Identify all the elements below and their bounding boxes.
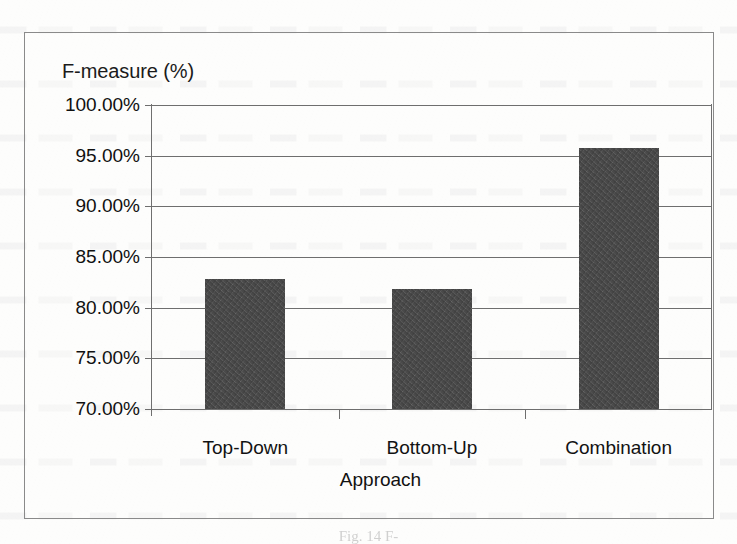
y-axis-tick-label: 80.00%	[28, 297, 140, 319]
y-axis-tick-mark	[145, 409, 153, 410]
x-axis-category-label: Bottom-Up	[339, 437, 526, 459]
y-axis-tick-label: 70.00%	[28, 398, 140, 420]
scanned-page: F-measure (%) 100.00%95.00%90.00%85.00%8…	[0, 0, 737, 544]
y-axis-tick-mark	[145, 308, 153, 309]
y-axis-tick-mark	[145, 105, 153, 106]
y-axis-tick-mark	[145, 257, 153, 258]
y-axis-tick-label: 85.00%	[28, 246, 140, 268]
x-axis-tick-mark	[339, 410, 340, 419]
bar-combination	[579, 148, 659, 409]
x-axis-category-label: Top-Down	[152, 437, 339, 459]
gridline	[152, 105, 712, 106]
y-axis-tick-label: 95.00%	[28, 145, 140, 167]
y-axis-tick-label: 100.00%	[28, 94, 140, 116]
y-axis-tick-mark	[145, 156, 153, 157]
bar-top-down	[205, 279, 285, 409]
x-axis-line	[152, 409, 712, 410]
y-axis-title: F-measure (%)	[62, 60, 194, 83]
bar-bottom-up	[392, 289, 472, 409]
bar-chart: F-measure (%) 100.00%95.00%90.00%85.00%8…	[0, 0, 737, 544]
figure-caption: Fig. 14 F-	[0, 528, 737, 544]
x-axis-title: Approach	[0, 469, 737, 491]
y-axis-tick-mark	[145, 358, 153, 359]
y-axis-tick-label: 90.00%	[28, 195, 140, 217]
plot-area	[152, 105, 712, 409]
y-axis-tick-labels: 100.00%95.00%90.00%85.00%80.00%75.00%70.…	[28, 105, 140, 409]
x-axis-tick-mark	[525, 410, 526, 419]
y-axis-tick-label: 75.00%	[28, 347, 140, 369]
x-axis-category-label: Combination	[525, 437, 712, 459]
y-axis-tick-mark	[145, 206, 153, 207]
x-axis-title-text: Approach	[340, 469, 421, 491]
